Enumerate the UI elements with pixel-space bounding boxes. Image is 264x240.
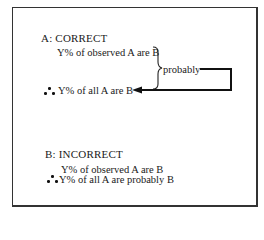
section-b-conclusion: Y% of all A are probably B <box>59 174 174 186</box>
section-b-heading: B: INCORRECT <box>45 148 123 160</box>
arrowhead-icon <box>132 87 142 94</box>
therefore-icon <box>47 175 59 185</box>
brace-icon <box>153 47 162 89</box>
connector-line <box>140 69 231 90</box>
